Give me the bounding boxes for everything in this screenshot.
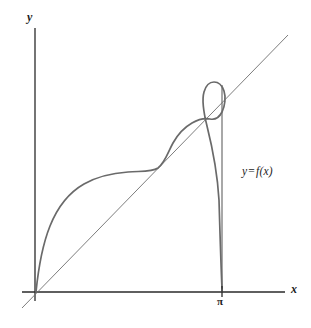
pi-tick-label: π (217, 296, 223, 307)
y-axis-label: y (27, 11, 32, 23)
function-curve (36, 82, 225, 292)
function-annotation-label: y=f(x) (242, 166, 273, 178)
function-graph-figure: y x π y=f(x) (0, 0, 311, 328)
graph-canvas (0, 0, 311, 328)
function-annotation-rhs: f(x) (256, 165, 273, 177)
x-axis-label: x (291, 283, 297, 295)
function-annotation-operator: = (247, 165, 256, 177)
